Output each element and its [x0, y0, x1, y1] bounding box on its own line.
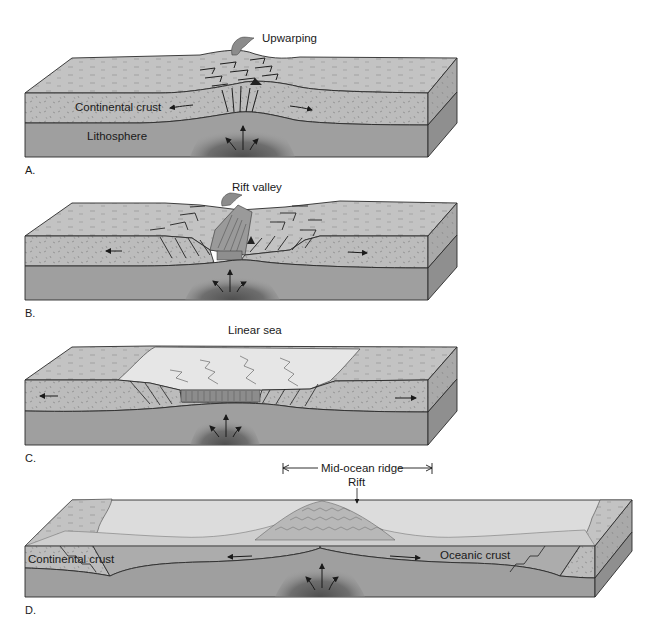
panel-a-title: Upwarping — [262, 32, 317, 44]
panel-a-letter: A. — [25, 164, 35, 176]
rift-label: Rift — [348, 476, 366, 488]
panel-b-volcano-icon — [222, 193, 242, 206]
panel-b: Rift valley B. — [25, 181, 457, 319]
panel-a-lithosphere-label: Lithosphere — [87, 130, 147, 142]
rifting-diagram: Upwarping Continental crust Lithosphere … — [0, 0, 646, 621]
panel-b-letter: B. — [25, 307, 35, 319]
panel-c-title: Linear sea — [228, 324, 282, 336]
mid-ocean-ridge-label: Mid-ocean ridge — [321, 462, 403, 474]
panel-d-oceanic-crust-label: Oceanic crust — [440, 549, 511, 561]
panel-d-letter: D. — [25, 604, 36, 616]
panel-a-crust-label: Continental crust — [75, 101, 162, 113]
panel-a: Upwarping Continental crust Lithosphere … — [25, 32, 457, 176]
panel-c: Linear sea C. — [25, 324, 457, 464]
panel-d: Mid-ocean ridge Rift — [25, 462, 632, 616]
panel-b-title: Rift valley — [232, 181, 282, 193]
panel-c-letter: C. — [25, 452, 36, 464]
panel-d-continental-crust-label: Continental crust — [28, 553, 115, 565]
